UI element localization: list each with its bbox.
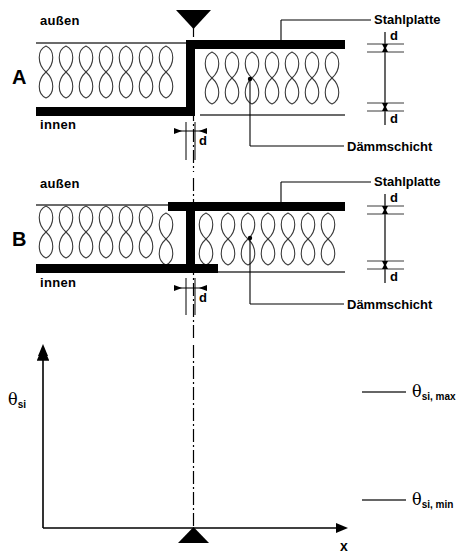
insulation-hatch-b-left [39,206,173,265]
chart-x-axis-label: x [340,538,348,554]
legend-item-max: θsi, max [412,382,456,401]
legend-max-subscript: si, max [422,391,456,402]
panel-letter-b: B [12,228,26,251]
panel-a-insulation-label: Dämmschicht [347,139,432,154]
theta-symbol: θ [8,390,18,409]
panel-b-steel-label: Stahlplatte [374,174,440,189]
theta-subscript: si [18,399,26,410]
panel-a-inside-label: innen [40,117,76,132]
panel-b-inside-label: innen [40,275,76,290]
panel-letter-a: A [12,66,26,89]
legend-item-min: θsi, min [412,490,453,509]
insulation-hatch-b-centre [199,213,213,265]
x-axis-arrow [336,523,348,533]
panel-a-thickness-top-label: d [390,28,398,43]
legend-rules [362,392,406,500]
insulation-hatch-a-right [205,52,339,104]
figure-root: A außen innen Stahlplatte Dämmschicht d … [0,0,474,560]
thickness-key-a [367,32,404,125]
panel-b-insulation-label: Dämmschicht [347,297,432,312]
insulation-hatch-a-left [39,46,173,98]
panel-a-web-dimension-label: d [199,133,207,148]
steel-plate-b-web [186,202,195,272]
panel-a-outside-label: außen [40,13,80,28]
legend-min-theta: θ [412,490,422,509]
callout-line-a-insulation [248,77,344,146]
panel-b-outside-label: außen [40,176,80,191]
steel-plate-b-bottom [36,264,218,273]
steel-plate-a-bottom [36,107,191,116]
panel-b-web-dimension-label: d [199,290,207,305]
panel-a-steel-label: Stahlplatte [374,12,440,27]
legend-min-subscript: si, min [422,499,454,510]
thickness-key-b [367,194,404,283]
panel-b-drawing [36,182,404,315]
y-axis-arrow [38,344,48,356]
legend-max-theta: θ [412,382,422,401]
steel-plate-a-top [191,40,345,49]
panel-a-thickness-bottom-label: d [390,111,398,126]
chart-y-axis-label: θsi [8,390,26,409]
triangle-up-icon [178,527,209,543]
triangle-down-icon [176,10,211,29]
insulation-hatch-b-right [221,213,335,265]
panel-b-thickness-top-label: d [390,190,398,205]
steel-plate-a-web [186,40,195,116]
panel-b-thickness-bottom-label: d [390,269,398,284]
